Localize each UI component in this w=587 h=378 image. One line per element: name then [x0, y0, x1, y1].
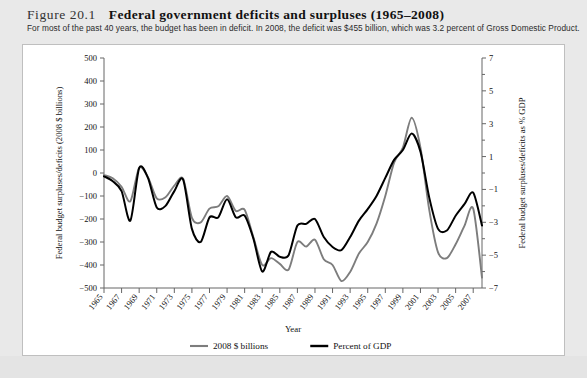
x-axis-tick-label: 2007 — [455, 292, 473, 312]
y-axis-left-tick-label: −100 — [79, 191, 97, 201]
x-axis-tick-label: 1983 — [244, 292, 262, 312]
figure-subtitle: For most of the past 40 years, the budge… — [27, 23, 580, 33]
chart-canvas: 5004003002001000−100−200−300−400−5007531… — [22, 44, 565, 356]
x-axis-tick-label: 1981 — [227, 292, 245, 312]
figure-root: Figure 20.1Federal government deficits a… — [0, 0, 587, 378]
y-axis-right-title: Federal budget surpluses/deficits as % G… — [517, 97, 527, 248]
y-axis-right-tick-label: 1 — [489, 152, 493, 162]
figure-title-row: Figure 20.1Federal government deficits a… — [27, 5, 444, 23]
series-line-1 — [104, 118, 482, 281]
x-axis-tick-label: 1993 — [332, 292, 350, 312]
x-axis-tick-label: 1967 — [104, 292, 122, 312]
y-axis-left-tick-label: −500 — [79, 283, 97, 293]
y-axis-left-tick-label: 500 — [84, 53, 97, 63]
x-axis-tick-label: 2005 — [438, 292, 456, 312]
y-axis-right-tick-label: −7 — [489, 283, 498, 293]
y-axis-right-tick-label: −5 — [489, 250, 498, 260]
x-axis-tick-label: 2003 — [420, 292, 438, 312]
x-axis-tick-label: 1975 — [174, 292, 192, 312]
series-line-2 — [104, 134, 482, 272]
y-axis-left-tick-label: −200 — [79, 214, 97, 224]
x-axis-tick-label: 1987 — [280, 292, 298, 312]
y-axis-left-tick-label: 200 — [84, 122, 97, 132]
x-axis-tick-label: 1965 — [86, 292, 104, 312]
x-axis-tick-label: 1999 — [385, 292, 403, 312]
x-axis-tick-label: 1995 — [350, 292, 368, 312]
x-axis-tick-label: 1973 — [157, 292, 175, 312]
y-axis-left-tick-label: −300 — [79, 237, 97, 247]
y-axis-right-tick-label: −1 — [489, 184, 498, 194]
y-axis-left-tick-label: 0 — [93, 168, 97, 178]
x-axis-tick-label: 1989 — [297, 292, 315, 312]
legend-label-1: 2008 $ billions — [213, 341, 269, 351]
y-axis-left-title: Federal budget surpluses/deficits (2008 … — [54, 87, 64, 260]
x-axis-tick-label: 1985 — [262, 292, 280, 312]
y-axis-right-tick-label: 3 — [489, 119, 493, 129]
y-axis-right-tick-label: 7 — [489, 53, 493, 63]
y-axis-left-tick-label: 100 — [84, 145, 97, 155]
x-axis-tick-label: 1971 — [139, 292, 157, 312]
x-axis-title: Year — [285, 324, 301, 334]
figure-header: Figure 20.1Federal government deficits a… — [0, 0, 587, 40]
page-bottom-strip — [0, 356, 587, 378]
legend-label-2: Percent of GDP — [333, 341, 391, 351]
x-axis-tick-label: 1969 — [121, 292, 139, 312]
figure-number: Figure 20.1 — [27, 7, 96, 22]
x-axis-tick-label: 1991 — [315, 292, 333, 312]
y-axis-left-tick-label: 300 — [84, 99, 97, 109]
x-axis-tick-label: 1997 — [368, 292, 386, 312]
y-axis-left-tick-label: −400 — [79, 260, 97, 270]
x-axis-tick-label: 2001 — [403, 292, 421, 312]
x-axis-tick-label: 1977 — [192, 292, 210, 312]
page-title: Federal government deficits and surpluse… — [109, 7, 444, 22]
y-axis-right-tick-label: −3 — [489, 217, 498, 227]
x-axis-tick-label: 1979 — [209, 292, 227, 312]
y-axis-left-tick-label: 400 — [84, 76, 97, 86]
y-axis-right-tick-label: 5 — [489, 86, 493, 96]
